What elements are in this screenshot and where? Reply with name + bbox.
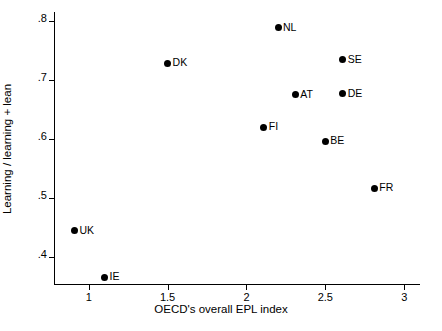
- y-tick-label: .7: [38, 72, 47, 83]
- data-point-label: UK: [80, 225, 95, 236]
- y-tick-label: .6: [38, 131, 47, 142]
- plot-area: .4.5.6.7.8 11.522.53 NLSEDKDEATFIBEFRUKI…: [54, 12, 420, 285]
- data-point-marker: [275, 24, 282, 31]
- data-point-marker: [71, 227, 78, 234]
- data-point-marker: [164, 60, 171, 67]
- data-point-marker: [292, 91, 299, 98]
- data-point-marker: [101, 274, 108, 281]
- data-point-label: BE: [330, 135, 344, 146]
- x-tick-label: 3: [401, 292, 407, 303]
- y-axis-title: Learning / learning + lean: [1, 12, 13, 285]
- data-point-label: DK: [173, 57, 188, 68]
- y-tick-mark: [49, 198, 54, 199]
- x-tick-mark: [404, 285, 405, 290]
- x-axis-line: [54, 284, 420, 285]
- y-tick-label: .8: [38, 13, 47, 24]
- data-point-marker: [322, 138, 329, 145]
- x-tick-mark: [89, 285, 90, 290]
- data-point-marker: [339, 56, 346, 63]
- x-tick-mark: [325, 285, 326, 290]
- data-point-label: FI: [269, 121, 278, 132]
- x-axis-title: OECD's overall EPL index: [0, 303, 442, 315]
- data-point-label: SE: [348, 54, 362, 65]
- x-tick-label: 1: [86, 292, 92, 303]
- y-axis-line: [54, 12, 55, 285]
- data-point-label: IE: [109, 271, 119, 282]
- x-tick-label: 2.5: [318, 292, 333, 303]
- y-tick-label: .4: [38, 249, 47, 260]
- y-tick-mark: [49, 139, 54, 140]
- data-point-marker: [260, 124, 267, 131]
- scatter-plot-figure: .4.5.6.7.8 11.522.53 NLSEDKDEATFIBEFRUKI…: [0, 0, 442, 331]
- y-tick-mark: [49, 21, 54, 22]
- x-tick-mark: [168, 285, 169, 290]
- y-tick-label: .5: [38, 190, 47, 201]
- data-point-marker: [339, 90, 346, 97]
- x-tick-label: 2: [243, 292, 249, 303]
- data-point-label: DE: [348, 88, 363, 99]
- data-point-label: AT: [300, 89, 313, 100]
- x-tick-mark: [246, 285, 247, 290]
- data-point-label: NL: [283, 22, 296, 33]
- data-point-marker: [371, 185, 378, 192]
- data-point-label: FR: [379, 182, 393, 193]
- y-tick-mark: [49, 80, 54, 81]
- x-tick-label: 1.5: [160, 292, 175, 303]
- y-tick-mark: [49, 257, 54, 258]
